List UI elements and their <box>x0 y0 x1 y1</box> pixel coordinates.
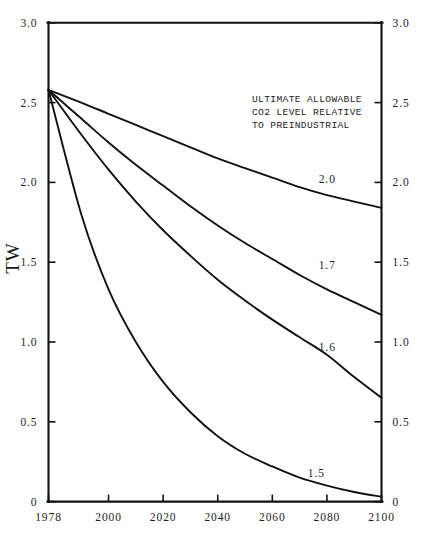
annotation-line: TO PREINDUSTRIAL <box>252 120 350 131</box>
x-tick-label: 2000 <box>95 511 122 523</box>
x-tick-label: 2080 <box>314 511 341 523</box>
y-tick-label-left: 3.0 <box>20 17 37 29</box>
chart-figure: 2.01.71.61.5 00.51.01.52.02.53.0 00.51.0… <box>0 0 422 538</box>
y-tick-label-left: 2.5 <box>20 97 37 109</box>
annotation-line: CO2 LEVEL RELATIVE <box>252 107 362 118</box>
y-tick-label-right: 2.5 <box>393 97 410 109</box>
y-tick-label-left: 1.0 <box>20 336 37 348</box>
y-tick-label-left: 2.0 <box>20 176 37 188</box>
series-label-2-0: 2.0 <box>319 173 336 185</box>
y-tick-label-right: 1.5 <box>393 256 410 268</box>
y-axis-title: TW <box>2 242 23 274</box>
x-tick-label: 2040 <box>204 511 231 523</box>
y-tick-label-right: 3.0 <box>393 17 410 29</box>
y-tick-label-left: 0 <box>31 496 38 508</box>
y-tick-label-right: 0 <box>393 496 400 508</box>
series-label-1-5: 1.5 <box>308 467 325 479</box>
x-tick-label: 2100 <box>368 511 395 523</box>
chart-background <box>0 0 422 538</box>
y-tick-label-right: 2.0 <box>393 176 410 188</box>
chart-canvas: 2.01.71.61.5 00.51.01.52.02.53.0 00.51.0… <box>0 0 422 538</box>
chart-annotation: ULTIMATE ALLOWABLECO2 LEVEL RELATIVETO P… <box>252 94 362 131</box>
series-label-1-7: 1.7 <box>319 259 336 271</box>
y-tick-label-right: 0.5 <box>393 416 410 428</box>
x-tick-label: 2020 <box>150 511 177 523</box>
x-tick-label: 1978 <box>35 511 62 523</box>
y-tick-label-left: 0.5 <box>20 416 37 428</box>
x-tick-label: 2060 <box>259 511 286 523</box>
y-tick-label-right: 1.0 <box>393 336 410 348</box>
series-label-1-6: 1.6 <box>319 341 336 353</box>
annotation-line: ULTIMATE ALLOWABLE <box>252 94 362 105</box>
